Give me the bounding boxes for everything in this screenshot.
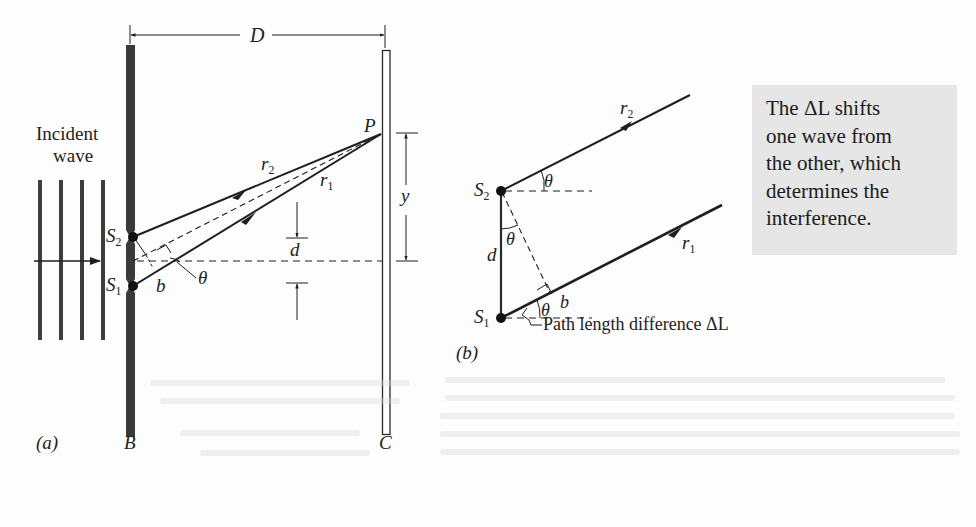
ray-r2-label-b: r2 <box>620 98 633 120</box>
angle-arc-bottom <box>537 300 540 318</box>
interference-callout: The ΔL shifts one wave from the other, w… <box>752 85 957 255</box>
path-diff-bracket <box>522 308 542 325</box>
midline-to-p <box>133 134 381 261</box>
callout-line: the other, which <box>766 150 945 178</box>
height-label: y <box>401 186 409 205</box>
path-diff-label-b: b <box>560 293 569 311</box>
panel-a-label: (a) <box>36 433 58 452</box>
ray-r2 <box>133 134 381 237</box>
slit-s1-dot <box>128 281 138 291</box>
screen-c-label: C <box>379 433 392 452</box>
theta-leader-a <box>177 262 196 278</box>
slit-s2-label-b: S2 <box>474 180 489 202</box>
panel-b-label: (b) <box>456 343 478 362</box>
ray-r1-label-b: r1 <box>682 233 695 255</box>
callout-line: The ΔL shifts <box>766 95 945 123</box>
incident-wave-label-line2: wave <box>53 146 93 165</box>
ray-r1-label: r1 <box>320 170 333 192</box>
screen-c <box>383 51 391 435</box>
point-p-label: P <box>364 116 376 135</box>
perp-from-s2 <box>135 239 146 255</box>
ray-r2-label: r2 <box>261 154 274 176</box>
slit-s1-label: S1 <box>106 275 121 297</box>
incident-wave-label-line1: Incident <box>36 124 98 143</box>
ray-r1-b <box>501 205 722 318</box>
callout-line: interference. <box>766 205 945 233</box>
incident-wavefronts <box>40 180 103 340</box>
separation-label: d <box>290 240 300 259</box>
callout-line: determines the <box>766 178 945 206</box>
angle-label-middle: θ <box>506 230 515 248</box>
angle-label-top: θ <box>544 172 553 190</box>
slit-s2-label: S2 <box>106 226 121 248</box>
double-slit-figure: Incident wave D P y d S2 S1 r2 r1 θ b (a… <box>0 0 976 527</box>
slit-s1-dot-b <box>496 313 506 323</box>
path-diff-caption: Path length difference ΔL <box>543 315 729 333</box>
barrier-b-label: B <box>124 433 136 452</box>
angle-label-a: θ <box>198 268 207 287</box>
ray-r2-b <box>501 95 690 191</box>
slit-s2-dot-b <box>496 186 506 196</box>
ray-r1 <box>133 134 381 286</box>
callout-line: one wave from <box>766 123 945 151</box>
distance-label: D <box>250 25 264 45</box>
slit-s1-label-b: S1 <box>474 307 489 329</box>
separation-label-b: d <box>487 245 497 264</box>
right-angle-mark-a <box>157 245 171 253</box>
slit-s2-dot <box>128 232 138 242</box>
path-diff-label-a: b <box>156 276 166 295</box>
